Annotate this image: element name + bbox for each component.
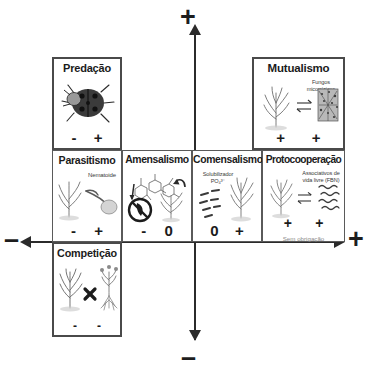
box-protocooperacao: Protocooperação Associativos de vida liv…	[262, 150, 345, 242]
box-protocooperacao-subnote: Sem obrigação	[263, 235, 344, 242]
box-amensalismo-title: Amensalismo	[123, 154, 191, 165]
box-parasitismo-title: Parasitismo	[53, 154, 121, 166]
box-competicao: Competição	[52, 242, 122, 337]
box-comensalismo-title: Comensalismo	[193, 154, 261, 165]
sign-right-value: -	[97, 320, 101, 332]
box-predacao-title: Predação	[54, 62, 120, 74]
sign-left-value: +	[276, 130, 285, 145]
box-protocooperacao-signs: + +	[263, 216, 344, 230]
sign-right-value: +	[94, 223, 103, 238]
box-mutualismo-title: Mutualismo	[254, 62, 343, 74]
sign-left-value: -	[73, 320, 77, 332]
box-predacao-signs: - +	[54, 130, 120, 145]
allelochemical-inhibition-icon	[123, 169, 191, 221]
sign-right-value: +	[312, 130, 321, 145]
sign-left-value: -	[72, 130, 77, 145]
box-protocooperacao-title: Protocooperação	[263, 154, 344, 165]
sign-left-value: -	[71, 223, 76, 238]
box-parasitismo: Parasitismo Nematoide - +	[52, 150, 122, 242]
box-competicao-title: Competição	[54, 247, 120, 259]
box-competicao-signs: - -	[54, 320, 120, 332]
axis-sign-bottom: –	[181, 344, 196, 371]
box-amensalismo: Amensalismo	[122, 150, 192, 242]
sign-right-value: +	[94, 130, 103, 145]
sign-right-value: +	[235, 223, 244, 238]
sign-right-value: 0	[164, 223, 172, 238]
axis-arrow-down-icon	[189, 330, 201, 341]
axis-sign-top: +	[180, 4, 196, 31]
plant-freeliving-bacteria-icon	[263, 173, 344, 219]
box-comensalismo: Comensalismo Solubilizador PO₄³⁻	[192, 150, 262, 242]
axis-sign-left: –	[4, 226, 19, 253]
box-parasitismo-signs: - +	[53, 223, 121, 238]
box-comensalismo-signs: 0 +	[193, 223, 261, 238]
plant-mycorrhiza-icon	[254, 77, 343, 128]
axis-arrow-left-icon	[20, 236, 31, 248]
two-plants-cross-icon	[54, 262, 120, 315]
sign-right-value: +	[315, 216, 323, 230]
box-predacao: Predação - +	[52, 57, 122, 150]
plant-nematode-icon	[53, 169, 121, 221]
sign-left-value: -	[141, 223, 146, 238]
box-mutualismo: Mutualismo Fungos micorrízicos	[252, 57, 345, 150]
bacteria-plant-icon	[193, 169, 261, 221]
box-amensalismo-signs: - 0	[123, 223, 191, 238]
diagram-canvas: + – – + Predação -	[0, 0, 373, 374]
ladybug-icon	[54, 77, 120, 128]
box-mutualismo-signs: + +	[254, 130, 343, 145]
axis-sign-right: +	[348, 226, 364, 253]
sign-left-value: 0	[210, 223, 218, 238]
sign-left-value: +	[284, 216, 292, 230]
